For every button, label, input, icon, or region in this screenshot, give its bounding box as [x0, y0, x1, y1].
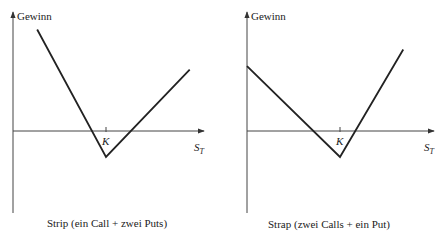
x-axis-label: ST	[194, 141, 205, 156]
payoff-line	[37, 30, 190, 157]
y-axis-label: Gewinn	[251, 10, 286, 22]
charts-canvas: GewinnSTKStrip (ein Call + zwei Puts) Ge…	[0, 0, 443, 242]
x-axis-label: ST	[424, 141, 435, 156]
y-axis-label: Gewinn	[17, 10, 52, 22]
chart-caption: Strip (ein Call + zwei Puts)	[47, 217, 167, 230]
strike-label: K	[335, 135, 344, 147]
chart-caption: Strap (zwei Calls + ein Put)	[268, 218, 390, 231]
strike-label: K	[101, 135, 110, 147]
payoff-line	[247, 50, 403, 157]
strap-chart: GewinnSTKStrap (zwei Calls + ein Put)	[247, 10, 435, 231]
strip-chart: GewinnSTKStrip (ein Call + zwei Puts)	[13, 10, 205, 230]
